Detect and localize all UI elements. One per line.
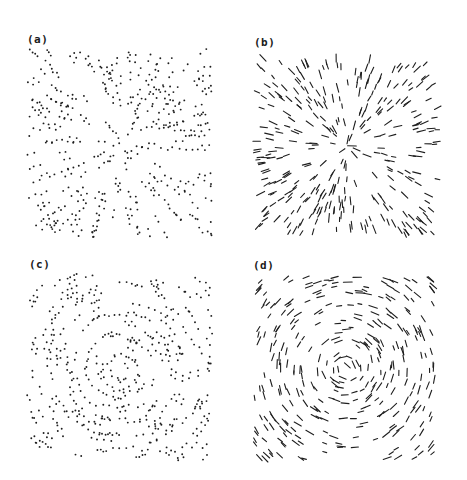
concentric-dot-pattern [25, 272, 215, 462]
panel-label-b: (b) [254, 36, 275, 49]
panel-label-d: (d) [253, 259, 274, 272]
radial-line-pattern [252, 52, 442, 240]
concentric-line-pattern [250, 273, 440, 463]
radial-dot-pattern [25, 48, 215, 238]
panel-label-a: (a) [27, 33, 48, 46]
panel-label-c: (c) [29, 258, 50, 271]
